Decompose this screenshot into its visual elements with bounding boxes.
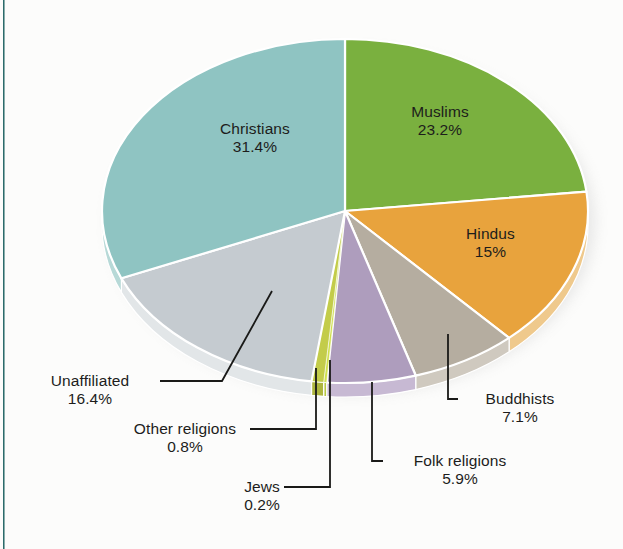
slice-label-muslims-pct: 23.2% xyxy=(385,121,495,139)
callout-label-buddhists-pct: 7.1% xyxy=(460,408,580,426)
callout-label-jews: Jews 0.2% xyxy=(222,478,302,514)
callout-label-unaffiliated-name: Unaffiliated xyxy=(20,372,160,390)
slice-label-christians: Christians 31.4% xyxy=(190,120,320,156)
callout-label-unaffiliated: Unaffiliated 16.4% xyxy=(20,372,160,408)
callout-label-other-religions-name: Other religions xyxy=(110,420,260,438)
callout-label-unaffiliated-pct: 16.4% xyxy=(20,390,160,408)
slice-label-hindus-name: Hindus xyxy=(466,225,515,242)
callout-label-jews-name: Jews xyxy=(222,478,302,496)
callout-label-folk-religions-pct: 5.9% xyxy=(385,470,535,488)
pie-side-other-religions xyxy=(312,381,324,396)
slice-label-muslims-name: Muslims xyxy=(411,103,469,120)
callout-label-buddhists: Buddhists 7.1% xyxy=(460,390,580,426)
callout-label-other-religions: Other religions 0.8% xyxy=(110,420,260,456)
callout-label-buddhists-name: Buddhists xyxy=(460,390,580,408)
slice-label-hindus: Hindus 15% xyxy=(438,225,543,261)
slice-label-christians-name: Christians xyxy=(220,120,290,137)
slice-label-hindus-pct: 15% xyxy=(438,243,543,261)
chart-figure: Christians 31.4% Muslims 23.2% Hindus 15… xyxy=(0,0,623,549)
pie-top-faces xyxy=(102,39,588,383)
callout-label-folk-religions: Folk religions 5.9% xyxy=(385,452,535,488)
slice-label-christians-pct: 31.4% xyxy=(190,138,320,156)
slice-label-muslims: Muslims 23.2% xyxy=(385,103,495,139)
callout-label-jews-pct: 0.2% xyxy=(222,496,302,514)
callout-label-other-religions-pct: 0.8% xyxy=(110,438,260,456)
callout-label-folk-religions-name: Folk religions xyxy=(385,452,535,470)
